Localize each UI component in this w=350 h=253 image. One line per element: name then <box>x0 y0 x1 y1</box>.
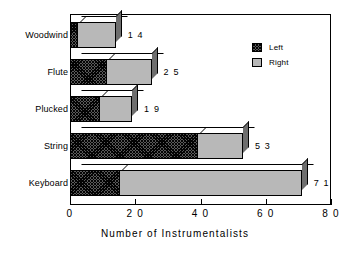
x-tick-mark <box>266 199 267 205</box>
legend-label: Left <box>269 43 283 52</box>
x-tick-mark <box>135 199 136 205</box>
x-tick-label: 0 <box>50 208 90 219</box>
x-axis-ticks: 02 04 06 08 0 <box>0 0 350 253</box>
bar-chart: WoodwindFlutePluckedStringKeyboard 1 42 … <box>0 0 350 253</box>
x-axis-title: Number of Instrumentalists <box>0 228 350 239</box>
x-tick-mark <box>331 199 332 205</box>
legend-label: Right <box>269 58 289 67</box>
x-tick-mark <box>70 199 71 205</box>
x-tick-label: 2 0 <box>115 208 155 219</box>
legend-swatch-right <box>252 58 262 67</box>
x-tick-mark <box>201 199 202 205</box>
x-tick-label: 6 0 <box>246 208 286 219</box>
legend-swatch-left <box>252 43 262 52</box>
legend-item: Right <box>252 56 289 68</box>
x-tick-label: 8 0 <box>311 208 350 219</box>
legend: LeftRight <box>252 41 289 71</box>
x-tick-label: 4 0 <box>181 208 221 219</box>
legend-item: Left <box>252 41 289 53</box>
